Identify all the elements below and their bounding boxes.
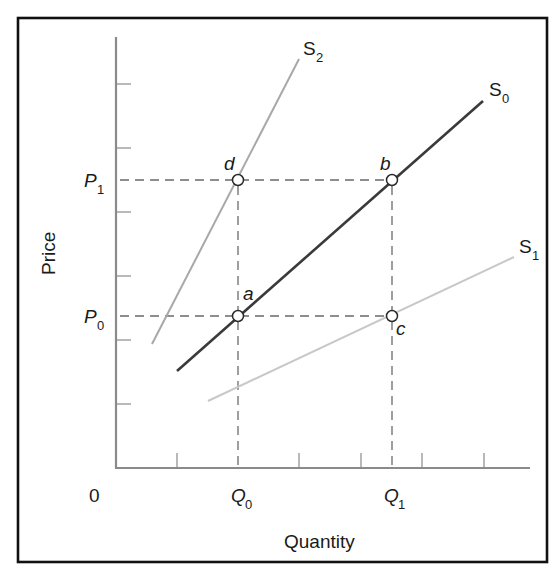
curve-label-s2-main: S [303, 38, 316, 59]
point-a [233, 311, 244, 322]
curve-label-s0-main: S [489, 79, 502, 100]
x-axis-title: Quantity [284, 531, 355, 552]
curve-label-s1-sub: 1 [532, 248, 539, 263]
q1-sub: 1 [398, 497, 405, 512]
p1-main: P [84, 170, 97, 191]
p1-sub: 1 [97, 182, 104, 197]
point-label-b: b [380, 153, 391, 174]
p0-main: P [84, 306, 97, 327]
figure-frame [18, 18, 547, 562]
point-d [233, 175, 244, 186]
q0-main: Q [231, 485, 246, 506]
curve-label-s0-sub: 0 [502, 91, 509, 106]
point-label-d: d [224, 153, 236, 174]
origin-label: 0 [89, 485, 100, 506]
p0-sub: 0 [97, 318, 104, 333]
y-axis-title: Price [38, 232, 59, 275]
curve-label-s2-sub: 2 [316, 50, 323, 65]
point-b [387, 175, 398, 186]
point-label-c: c [396, 318, 406, 339]
q0-sub: 0 [245, 497, 252, 512]
curve-label-s1-main: S [519, 236, 532, 257]
q1-main: Q [384, 485, 399, 506]
supply-shift-diagram: d b a c S 2 S 0 S 1 P 1 P 0 Q 0 Q 1 0 Qu… [0, 0, 558, 577]
point-label-a: a [243, 283, 254, 304]
